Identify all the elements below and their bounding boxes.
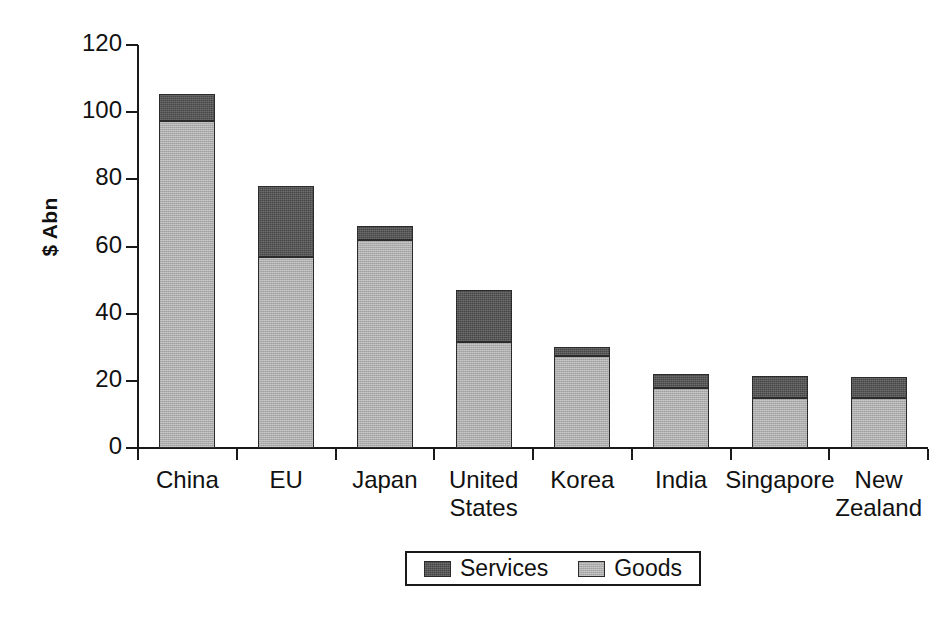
bar-group: [554, 347, 610, 448]
x-axis-tick: [433, 449, 435, 460]
y-axis-tick-label: 0: [64, 434, 122, 458]
bar-group: [752, 376, 808, 448]
x-axis-tick: [236, 449, 238, 460]
bar-segment-goods: [653, 388, 709, 448]
legend-entry: Goods: [578, 557, 682, 580]
y-axis-tick-label: 80: [64, 165, 122, 189]
y-axis-tick-label: 20: [64, 367, 122, 391]
y-axis-tick: [126, 111, 138, 113]
y-axis-tick-label: 120: [64, 31, 122, 55]
bar-segment-services: [159, 94, 215, 121]
bar-group: [258, 186, 314, 448]
bar-segment-goods: [752, 398, 808, 448]
bar-segment-services: [456, 290, 512, 342]
bar-group: [456, 290, 512, 448]
x-axis-tick: [532, 449, 534, 460]
bar-segment-goods: [851, 398, 907, 448]
bar-segment-services: [851, 377, 907, 398]
legend-swatch-services: [424, 561, 451, 577]
bar-segment-goods: [456, 342, 512, 448]
y-axis-tick-label: 40: [64, 300, 122, 324]
x-axis-category-label: New Zealand: [817, 466, 940, 523]
y-axis-tick: [126, 44, 138, 46]
legend-label: Services: [460, 557, 548, 580]
bar-segment-services: [653, 374, 709, 387]
bar-segment-goods: [159, 121, 215, 448]
x-axis-tick: [335, 449, 337, 460]
bar-group: [159, 94, 215, 448]
bar-segment-goods: [357, 240, 413, 448]
chart-legend: ServicesGoods: [405, 551, 701, 586]
legend-entry: Services: [424, 557, 548, 580]
bar-segment-services: [752, 376, 808, 398]
bar-segment-services: [554, 347, 610, 355]
bar-group: [653, 374, 709, 448]
x-axis-tick: [730, 449, 732, 460]
x-axis-tick: [828, 449, 830, 460]
bar-segment-services: [258, 186, 314, 257]
bar-segment-services: [357, 226, 413, 239]
x-axis-tick: [137, 449, 139, 460]
bar-chart: 020406080100120 $ Abn ChinaEUJapanUnited…: [0, 0, 949, 622]
y-axis-tick: [126, 178, 138, 180]
y-axis-tick-label: 60: [64, 233, 122, 257]
legend-swatch-goods: [578, 561, 605, 577]
bar-group: [357, 226, 413, 448]
legend-label: Goods: [614, 557, 682, 580]
x-axis-tick: [927, 449, 929, 460]
y-axis-tick: [126, 313, 138, 315]
x-axis-tick: [631, 449, 633, 460]
bar-segment-goods: [258, 257, 314, 448]
plot-area: [138, 45, 928, 448]
y-axis-tick-labels: 020406080100120: [50, 0, 122, 622]
y-axis-tick: [126, 246, 138, 248]
bar-group: [851, 377, 907, 448]
bar-segment-goods: [554, 356, 610, 448]
y-axis-tick-label: 100: [64, 98, 122, 122]
y-axis-title: $ Abn: [38, 167, 62, 287]
y-axis-tick: [126, 380, 138, 382]
